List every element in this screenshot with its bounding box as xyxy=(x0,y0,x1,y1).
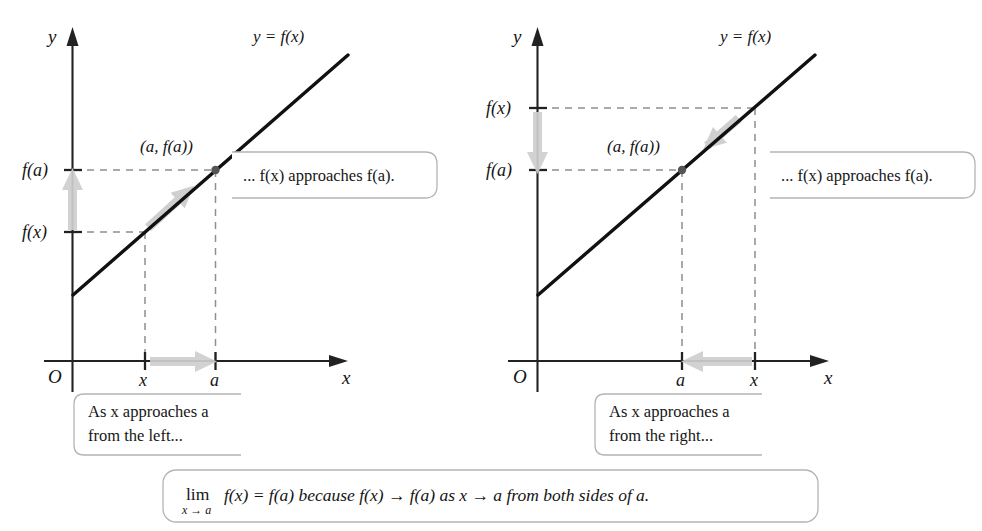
left-callout-right: ... f(x) approaches f(a). xyxy=(232,152,437,198)
left-ytick-lower-label: f(x) xyxy=(22,222,47,243)
left-xtick-left-label: x xyxy=(138,370,147,390)
left-callout-right-text: ... f(x) approaches f(a). xyxy=(243,166,395,185)
left-callout-bottom: As x approaches a from the left... xyxy=(74,394,241,455)
right-callout-bottom: As x approaches a from the right... xyxy=(595,394,762,455)
bottom-caption-limit-subscript: x → a xyxy=(181,503,211,517)
left-origin-label: O xyxy=(48,366,62,387)
left-callout-bottom-line1: As x approaches a xyxy=(88,402,209,421)
right-horizontal-approach-arrow xyxy=(681,351,752,372)
bottom-caption-limit-word: lim xyxy=(186,484,210,504)
right-panel: y x O f(x) f(a) a x xyxy=(486,26,975,455)
right-xtick-left-label: a xyxy=(676,370,685,390)
right-callout-right: ... f(x) approaches f(a). xyxy=(770,152,975,198)
bottom-caption-statement: f(x) = f(a) because f(x) → f(a) as x → a… xyxy=(224,485,649,505)
left-point-label: (a, f(a)) xyxy=(140,137,193,156)
left-ytick-upper-label: f(a) xyxy=(22,160,48,181)
right-xtick-right-label: x xyxy=(749,370,758,390)
left-xtick-right-label: a xyxy=(210,370,219,390)
right-point-label: (a, f(a)) xyxy=(607,137,660,156)
left-x-axis-label: x xyxy=(341,367,351,388)
bottom-caption: lim x → a f(x) = f(a) because f(x) → f(a… xyxy=(163,470,818,522)
left-panel: y x O f(a) f(x) x a xyxy=(22,26,437,455)
right-callout-bottom-line2: from the right... xyxy=(609,426,713,445)
right-callout-right-text: ... f(x) approaches f(a). xyxy=(781,166,933,185)
right-point-marker xyxy=(678,166,686,174)
right-vertical-approach-arrow xyxy=(527,112,548,174)
right-ytick-lower-label: f(a) xyxy=(486,160,512,181)
right-ytick-upper-label: f(x) xyxy=(486,98,511,119)
right-origin-label: O xyxy=(513,366,527,387)
left-callout-bottom-line2: from the left... xyxy=(88,426,183,445)
left-point-marker xyxy=(211,166,219,174)
left-curve-label: y = f(x) xyxy=(251,27,304,46)
right-callout-bottom-line1: As x approaches a xyxy=(609,402,730,421)
left-vertical-approach-arrow xyxy=(62,168,83,230)
right-y-axis-label: y xyxy=(511,26,522,47)
right-x-axis-label: x xyxy=(823,367,833,388)
limit-figure: y x O f(a) f(x) x a xyxy=(0,0,982,531)
left-y-axis-label: y xyxy=(46,26,57,47)
right-y-axis xyxy=(532,27,544,392)
right-curve-label: y = f(x) xyxy=(718,27,771,46)
left-horizontal-approach-arrow xyxy=(150,351,217,372)
right-x-axis xyxy=(508,355,829,367)
